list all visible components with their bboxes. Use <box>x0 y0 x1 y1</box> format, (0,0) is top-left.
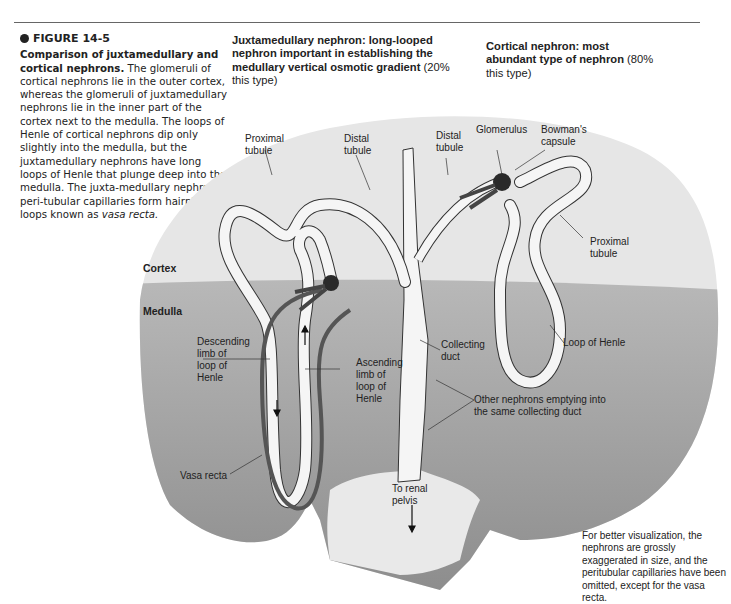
label-distal-tubule-top: Distal tubule <box>436 130 463 154</box>
label-descending-limb: Descending limb of loop of Henle <box>197 336 250 384</box>
label-glomerulus: Glomerulus <box>476 124 527 136</box>
label-distal-tubule-left: Distal tubule <box>344 133 371 157</box>
label-ascending-limb: Ascending limb of loop of Henle <box>356 357 403 405</box>
label-other-nephrons: Other nephrons emptying into the same co… <box>474 394 606 418</box>
label-loop-of-henle: Loop of Henle <box>563 337 625 349</box>
cortical-glomerulus <box>493 173 511 191</box>
cortex-label: Cortex <box>143 262 176 274</box>
juxtamedullary-heading: Juxtamedullary nephron: long-looped neph… <box>232 34 462 88</box>
label-to-renal-pelvis: To renal pelvis <box>392 483 428 507</box>
label-proximal-tubule-right: Proximal tubule <box>590 236 629 260</box>
cortical-heading: Cortical nephron: most abundant type of … <box>486 40 656 80</box>
label-vasa-recta: Vasa recta <box>180 470 227 482</box>
label-bowmans-capsule: Bowman's capsule <box>541 124 587 148</box>
label-collecting-duct: Collecting duct <box>441 339 485 363</box>
label-proximal-tubule-left: Proximal tubule <box>245 133 284 157</box>
medulla-label: Medulla <box>143 305 182 317</box>
footnote: For better visualization, the nephrons a… <box>582 530 731 604</box>
